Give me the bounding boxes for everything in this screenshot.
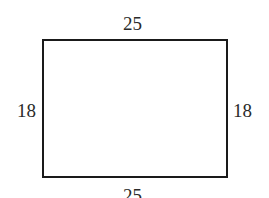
right-side-length-label: 18 (233, 101, 252, 120)
top-side-length-label: 25 (123, 14, 142, 33)
bottom-side-length-label: 25 (123, 186, 142, 198)
rectangle-shape (42, 39, 228, 178)
diagram-canvas: 25 18 18 25 (0, 0, 269, 198)
left-side-length-label: 18 (17, 101, 36, 120)
